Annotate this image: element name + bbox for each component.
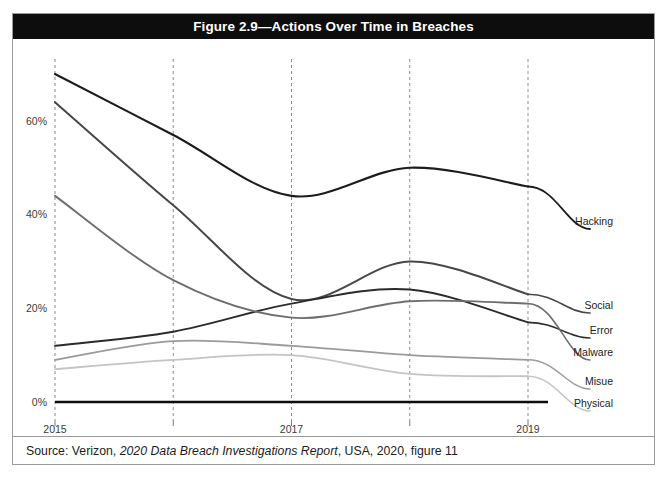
series-leader-misue: [528, 360, 590, 389]
series-label-malware: Malware: [573, 346, 613, 358]
page-title: Figure 2.9—Actions Over Time in Breaches: [193, 19, 474, 34]
figure-title-bar: Figure 2.9—Actions Over Time in Breaches: [13, 14, 654, 39]
source-prefix: Source: Verizon,: [26, 444, 120, 458]
source-report-title: 2020 Data Breach Investigations Report: [120, 444, 338, 458]
series-label-physical: Physical: [574, 397, 613, 409]
y-tick-label-40pct: 40%: [26, 208, 47, 220]
x-tick-label-2015: 2015: [43, 423, 67, 435]
figure-card: Figure 2.9—Actions Over Time in Breaches…: [12, 13, 655, 465]
gridlines-group: [55, 59, 528, 421]
y-tick-label-60pct: 60%: [26, 115, 47, 127]
x-tick-label-2019: 2019: [516, 423, 540, 435]
x-tick-label-2017: 2017: [280, 423, 304, 435]
series-label-hacking: Hacking: [575, 215, 613, 227]
source-suffix: , USA, 2020, figure 11: [338, 444, 458, 458]
y-tick-label-20pct: 20%: [26, 302, 47, 314]
series-label-social: Social: [584, 299, 613, 311]
series-line-hacking: [55, 74, 528, 196]
y-axis-ticks: 0%20%40%60%: [26, 115, 47, 408]
chart-plot-area: 0%20%40%60% 201520172019 HackingSocialEr…: [13, 39, 654, 436]
y-tick-label-0pct: 0%: [32, 396, 47, 408]
source-note: Source: Verizon, 2020 Data Breach Invest…: [13, 444, 458, 458]
series-lines-group: [55, 74, 590, 411]
source-row: Source: Verizon, 2020 Data Breach Invest…: [13, 437, 654, 465]
series-leader-error: [528, 322, 590, 338]
series-label-misue: Misue: [585, 375, 613, 387]
line-chart-svg: 0%20%40%60% 201520172019 HackingSocialEr…: [13, 39, 654, 436]
series-label-error: Error: [590, 324, 614, 336]
series-leader-social: [528, 294, 590, 313]
x-axis-ticks: 201520172019: [43, 421, 540, 435]
